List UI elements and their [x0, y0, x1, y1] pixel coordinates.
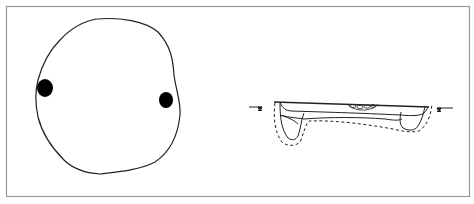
- section-view: [249, 102, 453, 145]
- fill-layer-lower: [280, 115, 402, 120]
- post-hole-right: [159, 92, 173, 108]
- excavation-limit: [274, 103, 432, 145]
- plan-view: [36, 19, 180, 174]
- datum-marker-left: [249, 107, 262, 111]
- figure-canvas: [0, 0, 474, 204]
- post-hole-left: [37, 79, 53, 97]
- post-hole-section-right: [400, 106, 425, 130]
- drawing: [0, 0, 474, 204]
- datum-marker-right: [437, 108, 453, 112]
- post-hole-section-left-inner: [280, 115, 298, 124]
- pit-outline: [36, 19, 180, 174]
